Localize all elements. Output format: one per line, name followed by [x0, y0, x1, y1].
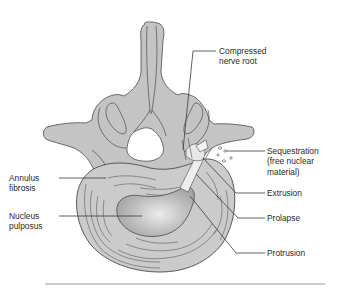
- vertebra-diagram: [0, 0, 347, 289]
- label-extrusion: Extrusion: [267, 188, 302, 198]
- label-protrusion: Protrusion: [267, 248, 305, 258]
- label-annulus-fibrosis: Annulus fibrosis: [9, 173, 39, 194]
- label-nucleus-pulposus: Nucleus pulposus: [9, 211, 43, 232]
- label-compressed-nerve-root: Compressed nerve root: [219, 46, 266, 67]
- intervertebral-disc: [77, 156, 235, 272]
- label-prolapse: Prolapse: [267, 213, 300, 223]
- label-sequestration: Sequestration (free nuclear material): [267, 146, 319, 177]
